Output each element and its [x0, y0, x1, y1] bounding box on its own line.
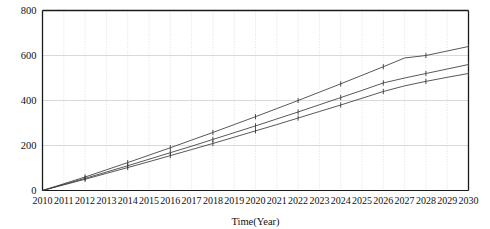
x-tick-label: 2024 [331, 195, 351, 206]
x-tick-label: 2023 [309, 195, 329, 206]
x-tick-label: 2021 [267, 195, 287, 206]
x-tick-label: 2017 [182, 195, 202, 206]
x-tick-label: 2018 [203, 195, 223, 206]
x-tick-label: 2025 [352, 195, 372, 206]
x-tick-label: 2013 [96, 195, 116, 206]
x-tick-label: 2015 [139, 195, 159, 206]
x-tick-label: 2028 [416, 195, 436, 206]
x-tick-label: 2029 [437, 195, 457, 206]
x-tick-label: 2026 [373, 195, 393, 206]
x-tick-label: 2016 [160, 195, 180, 206]
line-chart: 0200400600800 20102011201220132014201520… [0, 0, 490, 229]
x-axis-tick-labels: 2010201120122013201420152016201720182019… [33, 195, 479, 206]
x-tick-label: 2014 [118, 195, 138, 206]
y-tick-label: 200 [21, 140, 37, 151]
x-tick-label: 2030 [459, 195, 479, 206]
x-tick-label: 2022 [288, 195, 308, 206]
y-tick-label: 600 [21, 50, 37, 61]
x-tick-label: 2012 [75, 195, 95, 206]
x-tick-label: 2010 [33, 195, 53, 206]
x-axis-title: Time(Year) [231, 216, 280, 228]
y-tick-label: 400 [21, 95, 37, 106]
x-tick-label: 2020 [246, 195, 266, 206]
x-tick-label: 2027 [395, 195, 415, 206]
x-tick-label: 2019 [224, 195, 244, 206]
y-tick-label: 800 [21, 5, 37, 16]
x-tick-label: 2011 [54, 195, 74, 206]
chart-container: 0200400600800 20102011201220132014201520… [0, 0, 490, 229]
